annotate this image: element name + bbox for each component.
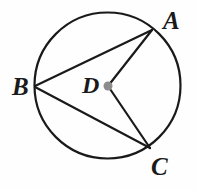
point-label-b: B <box>12 74 29 99</box>
radius-d-to-c <box>108 86 150 148</box>
radius-d-to-a <box>108 30 152 86</box>
point-label-d: D <box>82 73 99 97</box>
point-label-a: A <box>163 8 180 33</box>
point-label-c: C <box>151 154 168 179</box>
center-point-dot <box>104 82 113 91</box>
circle-geometry-diagram: A B C D <box>0 0 197 190</box>
